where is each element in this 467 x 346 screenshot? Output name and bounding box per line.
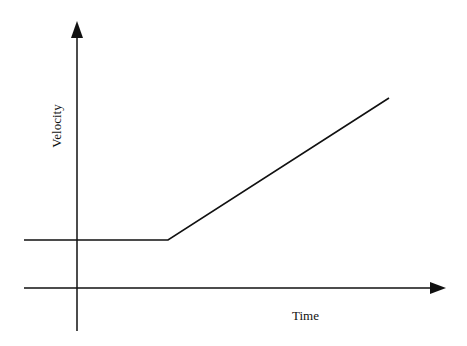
- y-axis-label: Velocity: [49, 104, 64, 148]
- x-axis-label: Time: [292, 308, 319, 323]
- y-axis-arrowhead-icon: [71, 21, 83, 38]
- x-axis-arrowhead-icon: [430, 282, 446, 294]
- velocity-curve: [24, 98, 389, 240]
- velocity-time-diagram: Velocity Time: [0, 0, 467, 346]
